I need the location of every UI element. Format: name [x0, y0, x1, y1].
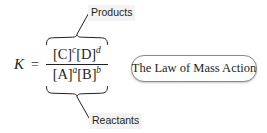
overbrace-icon — [47, 35, 108, 45]
equals-sign: = — [31, 58, 39, 72]
numerator-species-1: [C] — [53, 46, 72, 62]
fraction: [C]c[D]d [A]a[B]b — [46, 47, 108, 82]
numerator-exponent-2: d — [96, 45, 101, 55]
fraction-denominator: [A]a[B]b — [51, 67, 103, 83]
underbrace-icon — [47, 87, 108, 97]
law-of-mass-action-text: The Law of Mass Action — [132, 62, 256, 75]
denominator-species-1: [A] — [53, 66, 73, 82]
denominator-exponent-2: b — [96, 65, 101, 75]
reactants-leader-line-icon — [77, 97, 89, 118]
law-of-mass-action-callout-box: The Law of Mass Action — [131, 55, 257, 82]
law-of-mass-action-figure: K = [C]c[D]d [A]a[B]b Products Reactants… — [0, 0, 267, 133]
denominator-species-2: [B] — [77, 66, 96, 82]
products-label: Products — [88, 5, 135, 21]
equilibrium-constant-symbol: K — [14, 57, 24, 72]
products-leader-line-icon — [77, 14, 89, 35]
fraction-numerator: [C]c[D]d — [51, 47, 103, 63]
reactants-label: Reactants — [89, 113, 142, 129]
equilibrium-constant-equation: K = [C]c[D]d [A]a[B]b — [14, 47, 108, 82]
numerator-species-2: [D] — [76, 46, 96, 62]
